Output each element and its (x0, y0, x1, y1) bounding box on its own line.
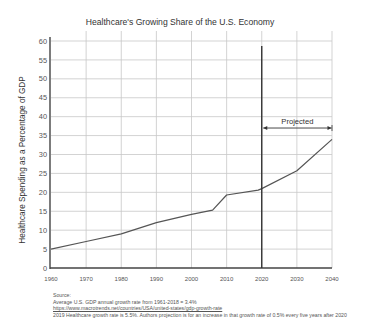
y-axis-label: Healthcare Spending as a Percentage of G… (18, 76, 27, 244)
chart-title: Healthcare's Growing Share of the U.S. E… (86, 17, 275, 27)
source-line-note: 2019 Healthcare growth rate is 5.5%. Aut… (53, 312, 347, 318)
y-tick-label: 0 (43, 264, 47, 273)
x-tick-label: 2030 (290, 276, 304, 282)
tick-labels: 0510152025303540455055601960197019801990… (39, 37, 340, 282)
y-tick-label: 45 (39, 93, 47, 102)
y-tick-label: 25 (39, 169, 47, 178)
x-tick-label: 1970 (79, 276, 93, 282)
projected-arrow-head-right (328, 126, 332, 130)
y-tick-label: 55 (39, 56, 47, 65)
axes (50, 37, 332, 269)
chart: Healthcare's Growing Share of the U.S. E… (0, 0, 377, 323)
y-tick-label: 40 (39, 112, 47, 121)
x-tick-label: 2040 (325, 276, 339, 282)
x-tick-label: 1990 (150, 276, 164, 282)
x-tick-label: 2010 (220, 276, 234, 282)
y-tick-label: 15 (39, 207, 47, 216)
source-heading: Source: (53, 292, 71, 298)
x-tick-label: 2020 (255, 276, 269, 282)
y-tick-label: 35 (39, 131, 47, 140)
source-link[interactable]: https://www.macrotrends.net/countries/US… (53, 305, 222, 311)
x-tick-label: 1960 (44, 276, 58, 282)
x-tick-label: 2000 (185, 276, 199, 282)
y-tick-label: 5 (43, 245, 47, 254)
projected-label: Projected (281, 117, 313, 126)
source-line-gdp: Average U.S. GDP annual growth rate from… (53, 299, 197, 305)
y-tick-label: 60 (39, 37, 47, 46)
y-tick-label: 20 (39, 188, 47, 197)
projected-arrow-head-left (263, 126, 267, 130)
grid (51, 31, 332, 268)
x-tick-label: 1980 (115, 276, 129, 282)
y-tick-label: 30 (39, 150, 47, 159)
y-tick-label: 50 (39, 74, 47, 83)
y-tick-label: 10 (39, 226, 47, 235)
